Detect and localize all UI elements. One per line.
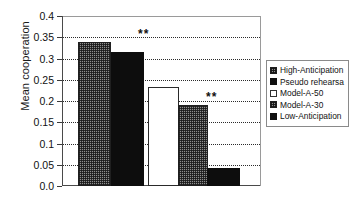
legend-swatch-icon — [270, 101, 277, 108]
legend-swatch-icon — [270, 78, 277, 85]
legend-item-label: Low-Anticipation — [280, 112, 341, 120]
significance-marker: ** — [206, 91, 217, 103]
legend-item-label: Model-A-30 — [280, 101, 323, 109]
y-axis-tick-label: 0.4 — [8, 11, 54, 22]
y-axis-tick — [57, 186, 62, 187]
y-axis-tick-label: 0.3 — [8, 54, 54, 65]
legend-item-model-a-50[interactable]: Model-A-50 — [270, 88, 346, 99]
bar-model-a-30[interactable] — [178, 105, 208, 186]
legend-item-label: Pseudo rehearsa — [280, 78, 344, 86]
bar-high-anticipation[interactable] — [78, 42, 111, 187]
legend-item-label: High-Anticipation — [280, 66, 343, 74]
bar-low-anticipation[interactable] — [207, 168, 240, 186]
bars-layer — [62, 16, 260, 186]
significance-marker: ** — [138, 28, 149, 40]
y-axis-tick-label: 0.0 — [8, 181, 54, 192]
legend-swatch-icon — [270, 90, 277, 97]
legend-item-label: Model-A-50 — [280, 89, 323, 97]
legend-swatch-icon — [270, 67, 277, 74]
y-axis-tick-label: 0.1 — [8, 139, 54, 150]
bar-pseudo-rehearsa[interactable] — [111, 52, 144, 186]
bar-model-a-50[interactable] — [148, 87, 179, 186]
y-axis-tick-label: 0.35 — [8, 32, 54, 43]
y-axis-tick-label: 0.05 — [8, 160, 54, 171]
y-axis-tick-label: 0.25 — [8, 75, 54, 86]
legend: High-AnticipationPseudo rehearsaModel-A-… — [266, 60, 349, 127]
bar-chart-figure: Mean cooperation 0.40.350.30.250.20.150.… — [0, 0, 351, 207]
legend-item-model-a-30[interactable]: Model-A-30 — [270, 100, 346, 111]
legend-swatch-icon — [270, 113, 277, 120]
legend-item-low-anticipation[interactable]: Low-Anticipation — [270, 111, 346, 122]
legend-item-high-anticipation[interactable]: High-Anticipation — [270, 65, 346, 76]
plot-right-border — [260, 16, 261, 186]
y-axis-tick-label: 0.2 — [8, 96, 54, 107]
legend-item-pseudo-rehearsa[interactable]: Pseudo rehearsa — [270, 77, 346, 88]
y-axis-tick-label: 0.15 — [8, 117, 54, 128]
